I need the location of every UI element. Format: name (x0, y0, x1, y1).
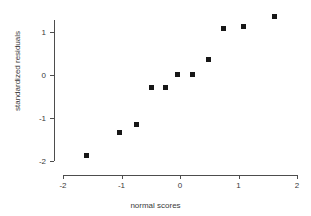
y-axis-title: standardized residuals (13, 31, 22, 111)
data-point (241, 24, 246, 29)
data-point (190, 72, 195, 77)
x-tick-mark (239, 175, 240, 179)
x-tick-label: 2 (283, 181, 311, 190)
x-tick-label: 0 (166, 181, 194, 190)
y-axis-line (54, 20, 55, 161)
scatter-plot: -2-1012 -2-101 normal scores standardize… (0, 0, 311, 216)
data-point (175, 72, 180, 77)
y-tick-label: -1 (23, 114, 46, 123)
plot-area (0, 0, 311, 216)
x-tick-label: -2 (49, 181, 77, 190)
y-tick-mark (50, 161, 54, 162)
y-tick-mark (50, 118, 54, 119)
x-tick-mark (63, 175, 64, 179)
y-tick-label: -2 (23, 157, 46, 166)
y-tick-mark (50, 32, 54, 33)
data-point (206, 57, 211, 62)
x-axis-title: normal scores (0, 201, 311, 210)
data-point (84, 153, 89, 158)
y-axis-title-wrapper: standardized residuals (6, 16, 24, 126)
data-point (272, 14, 277, 19)
data-point (134, 122, 139, 127)
y-tick-label: 0 (23, 71, 46, 80)
y-tick-label: 1 (23, 28, 46, 37)
x-tick-mark (180, 175, 181, 179)
data-point (149, 85, 154, 90)
x-tick-label: -1 (108, 181, 136, 190)
data-point (163, 85, 168, 90)
data-point (221, 26, 226, 31)
x-tick-label: 1 (225, 181, 253, 190)
x-tick-mark (297, 175, 298, 179)
x-tick-mark (122, 175, 123, 179)
data-point (117, 130, 122, 135)
y-tick-mark (50, 75, 54, 76)
